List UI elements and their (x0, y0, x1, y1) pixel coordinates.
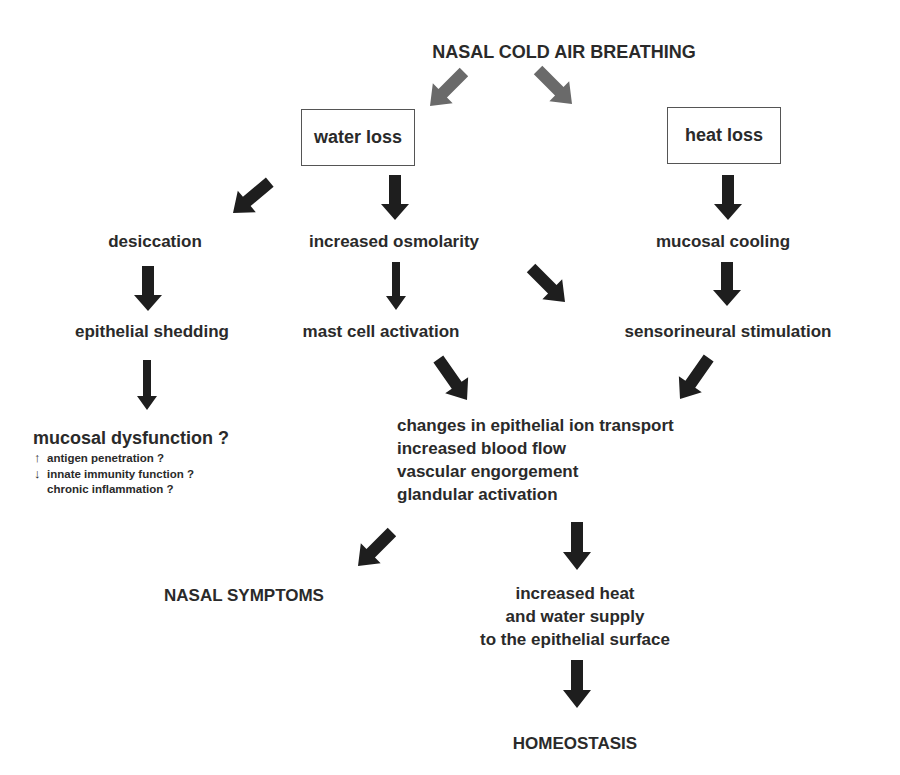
node-mucosal-cooling: mucosal cooling (656, 232, 790, 252)
arrow-sensorineural-to-responses (669, 350, 721, 407)
response-item: glandular activation (397, 483, 674, 506)
arrow-to-homeostasis (563, 660, 591, 708)
node-increased-osmolarity: increased osmolarity (309, 232, 479, 252)
responses-list: changes in epithelial ion transport incr… (397, 414, 674, 506)
node-sensorineural-stimulation: sensorineural stimulation (625, 322, 832, 342)
arrow-to-desiccation (224, 171, 279, 223)
node-mucosal-dysfunction-title: mucosal dysfunction ? (33, 428, 229, 448)
dysfunction-item-label: innate immunity function ? (47, 468, 194, 480)
arrow-to-nasal-symptoms (348, 522, 402, 576)
down-arrow-icon: ↓ (34, 466, 47, 481)
node-nasal-symptoms: NASAL SYMPTOMS (164, 586, 324, 606)
response-item: changes in epithelial ion transport (397, 414, 674, 437)
node-desiccation: desiccation (108, 232, 202, 252)
arrow-to-increased-supply (563, 522, 591, 570)
gray-arrow-to-water-loss (420, 62, 474, 116)
water-loss-label: water loss (314, 127, 402, 148)
response-item: vascular engorgement (397, 460, 674, 483)
arrow-to-epithelial-shedding (134, 266, 162, 311)
dysfunction-item-label: antigen penetration ? (47, 452, 164, 464)
up-arrow-icon: ↑ (34, 450, 47, 465)
dysfunction-item: ↓innate immunity function ? (34, 466, 194, 482)
box-water-loss: water loss (301, 109, 415, 166)
diagram-title: NASAL COLD AIR BREATHING (432, 42, 696, 62)
dysfunction-item-label: chronic inflammation ? (47, 483, 174, 495)
arrow-mast-cell-to-responses (427, 351, 479, 408)
supply-line: increased heat (480, 582, 670, 605)
node-homeostasis: HOMEOSTASIS (513, 734, 637, 754)
supply-block: increased heat and water supply to the e… (480, 582, 670, 651)
arrow-to-mucosal-dysfunction (137, 360, 157, 410)
arrow-to-mucosal-cooling (714, 175, 742, 220)
supply-line: to the epithelial surface (480, 628, 670, 651)
node-mast-cell-activation: mast cell activation (303, 322, 460, 342)
supply-line: and water supply (480, 605, 670, 628)
response-item: increased blood flow (397, 437, 674, 460)
dysfunction-item: ↑antigen penetration ? (34, 450, 194, 466)
gray-arrow-to-heat-loss (528, 60, 582, 114)
heat-loss-label: heat loss (685, 125, 763, 146)
arrow-to-mast-cell-activation (386, 262, 406, 310)
arrow-to-sensorineural-stimulation (521, 258, 575, 312)
dysfunction-item: chronic inflammation ? (34, 482, 194, 497)
arrow-to-increased-osmolarity (381, 175, 409, 220)
mucosal-dysfunction-list: ↑antigen penetration ? ↓innate immunity … (34, 450, 194, 497)
arrow-mucosal-to-sensorineural (713, 262, 741, 306)
node-epithelial-shedding: epithelial shedding (75, 322, 229, 342)
box-heat-loss: heat loss (667, 107, 781, 164)
